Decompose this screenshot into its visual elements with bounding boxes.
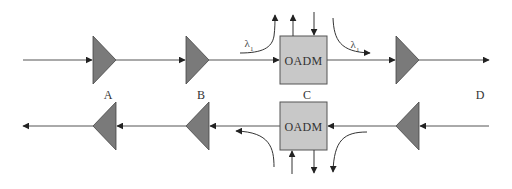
- amplifier-A-top: [93, 36, 116, 84]
- node-label-D: D: [476, 88, 485, 103]
- lambda-subscript: 1: [250, 45, 254, 53]
- bottom-drop-curve: [236, 131, 274, 167]
- amplifier-D-bottom: [396, 102, 419, 150]
- lambda-subscript: 1: [356, 46, 360, 54]
- lambda-add-label: λ1: [351, 38, 360, 53]
- oadm-network-diagram: [0, 0, 512, 189]
- bottom-oadm-ports: [292, 150, 314, 174]
- amplifier-B-bottom: [186, 102, 209, 150]
- node-label-A: A: [104, 88, 113, 103]
- node-label-B: B: [197, 88, 205, 103]
- amplifier-A-bottom: [93, 102, 116, 150]
- lambda-drop-label: λ1: [245, 37, 254, 52]
- top-oadm-label: OADM: [285, 54, 323, 69]
- bottom-oadm-label: OADM: [285, 120, 323, 135]
- bottom-add-curve: [333, 132, 367, 172]
- node-label-C: C: [303, 88, 311, 103]
- top-oadm-ports: [293, 12, 314, 36]
- amplifier-B-top: [186, 36, 209, 84]
- amplifier-D-top: [396, 36, 419, 84]
